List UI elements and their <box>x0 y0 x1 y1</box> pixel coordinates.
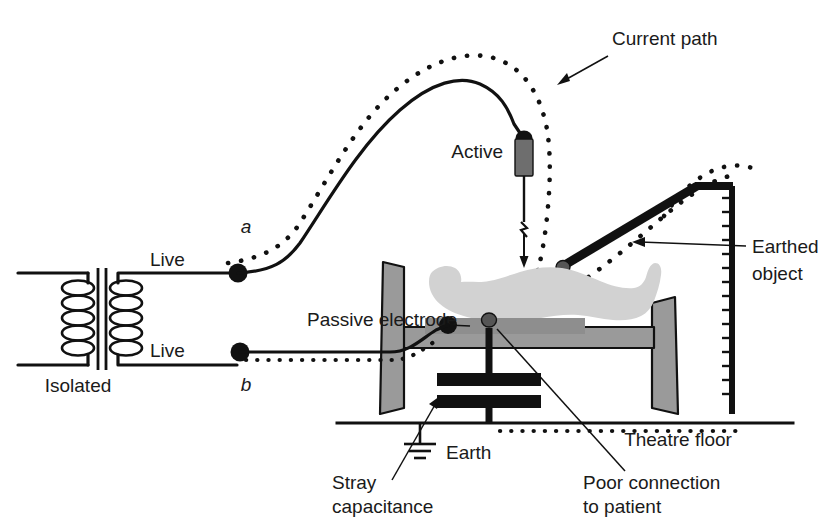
earthed-object-arm <box>563 186 697 266</box>
current-path-over-earthed-object <box>664 165 760 216</box>
electrosurgery-diagram: Isolated Live Live a b Active Current pa… <box>0 0 828 526</box>
poor-connection-label-line2: to patient <box>583 496 662 517</box>
live-upper-label: Live <box>150 249 185 270</box>
diagram-canvas: Isolated Live Live a b Active Current pa… <box>0 0 828 526</box>
isolation-transformer <box>18 268 237 370</box>
active-lead-cable <box>238 80 522 273</box>
earth-ground-symbol <box>404 423 436 458</box>
poor-connection-contact-point <box>482 313 497 327</box>
current-path-upper-dotted <box>228 55 550 270</box>
isolated-label: Isolated <box>45 375 112 396</box>
earthed-object-label-line2: object <box>752 263 803 284</box>
earthed-object-leader <box>632 237 746 247</box>
active-electrode-arrowhead <box>520 256 529 268</box>
earthed-object-hatching <box>722 198 729 394</box>
earthed-object-label-line1: Earthed <box>752 236 819 257</box>
passive-electrode-label: Passive electrode <box>307 309 457 330</box>
capacitor-plate-top <box>437 373 541 386</box>
earthed-object-post <box>729 186 735 414</box>
active-label: Active <box>451 141 503 162</box>
transformer-secondary-winding <box>110 281 142 356</box>
capacitor-plate-bottom <box>437 395 541 408</box>
earthed-object-arrowhead <box>632 237 645 247</box>
passive-electrode-leader <box>448 325 470 326</box>
earth-label: Earth <box>446 442 491 463</box>
stray-capacitance-label-line1: Stray <box>332 472 377 493</box>
poor-connection-label-line1: Poor connection <box>583 472 720 493</box>
terminal-a-label: a <box>241 216 252 237</box>
current-path-leader <box>557 56 608 85</box>
current-path-label: Current path <box>612 28 718 49</box>
live-lower-label: Live <box>150 340 185 361</box>
transformer-primary-winding <box>62 281 94 356</box>
terminal-b-label: b <box>241 374 252 395</box>
current-path-arrowhead <box>557 73 570 85</box>
active-electrode[interactable] <box>515 131 533 269</box>
active-electrode-handle <box>515 139 533 176</box>
patient-silhouette <box>429 263 661 322</box>
stray-capacitance-label-line2: capacitance <box>332 496 433 517</box>
